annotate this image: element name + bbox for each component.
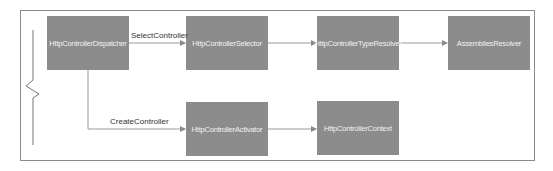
break-line-icon: [26, 30, 39, 145]
node-dispatcher: HttpControllerDispatcher: [47, 16, 129, 70]
node-activator: HttpControllerActivator: [186, 102, 268, 156]
node-assemblies-resolver: AssembliesResolver: [448, 16, 530, 70]
node-selector: HttpControllerSelector: [186, 16, 268, 70]
edge-label-select-controller: SelectController: [131, 31, 188, 40]
node-context: HttpControllerContext: [317, 101, 399, 155]
node-type-resolver: HttpControllerTypeResolver: [317, 16, 399, 70]
edge-label-create-controller: CreateController: [110, 117, 169, 126]
